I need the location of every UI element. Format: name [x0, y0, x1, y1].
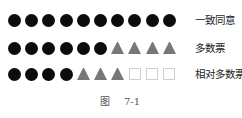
label-plurality: 相对多数票	[195, 67, 242, 81]
circle-icon	[25, 42, 38, 55]
circle-icon	[94, 42, 107, 55]
circle-icon	[60, 42, 73, 55]
circle-icon	[146, 14, 159, 27]
caption-prefix: 图	[100, 96, 110, 107]
figure-caption: 图7-1	[100, 93, 140, 108]
circle-icon	[111, 14, 124, 27]
circle-icon	[42, 42, 55, 55]
circle-icon	[42, 14, 55, 27]
circle-icon	[77, 14, 90, 27]
circle-icon	[60, 68, 73, 81]
row-majority	[8, 41, 180, 55]
circle-icon	[163, 14, 176, 27]
circle-icon	[94, 14, 107, 27]
square-icon	[146, 68, 158, 80]
triangle-icon	[111, 68, 124, 80]
triangle-icon	[146, 42, 159, 54]
circle-icon	[8, 68, 21, 81]
circle-icon	[25, 68, 38, 81]
label-unanimous: 一致同意	[195, 13, 235, 27]
circle-icon	[128, 14, 141, 27]
circle-icon	[42, 68, 55, 81]
circle-icon	[77, 42, 90, 55]
row-plurality	[8, 67, 180, 81]
square-icon	[163, 68, 175, 80]
row-unanimous	[8, 13, 180, 27]
caption-number: 7-1	[124, 96, 140, 107]
triangle-icon	[94, 68, 107, 80]
circle-icon	[25, 14, 38, 27]
triangle-icon	[163, 42, 176, 54]
label-majority: 多数票	[195, 41, 225, 55]
circle-icon	[8, 14, 21, 27]
triangle-icon	[128, 42, 141, 54]
circle-icon	[8, 42, 21, 55]
circle-icon	[60, 14, 73, 27]
triangle-icon	[111, 42, 124, 54]
square-icon	[129, 68, 141, 80]
triangle-icon	[77, 68, 90, 80]
